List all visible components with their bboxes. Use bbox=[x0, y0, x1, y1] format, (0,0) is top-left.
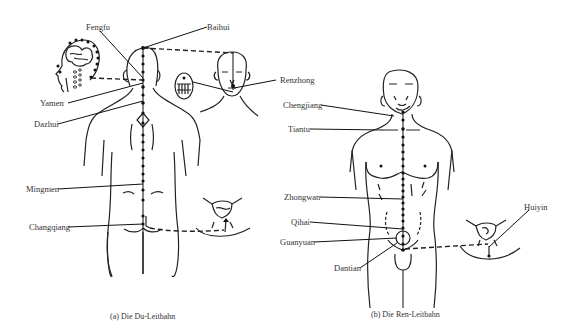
panel-b-front-figure bbox=[350, 70, 454, 308]
label-guanyuan: Guanyuan bbox=[280, 237, 315, 247]
connector-brain-spine bbox=[91, 78, 143, 80]
label-baihui: Baihui bbox=[207, 22, 230, 32]
label-renzhong: Renzhong bbox=[280, 75, 314, 85]
caption-panel-b: (b) Die Ren-Leitbahn bbox=[371, 310, 440, 319]
face-inset bbox=[200, 52, 258, 116]
connector-huiyin bbox=[405, 244, 488, 249]
label-changqiang: Changqiang bbox=[29, 222, 70, 232]
diagram-drawing bbox=[0, 0, 573, 336]
du-meridian-points bbox=[141, 46, 145, 226]
pelvis-inset-b bbox=[460, 220, 520, 259]
label-dazhui: Dazhui bbox=[34, 119, 59, 129]
label-tiantu: Tiantu bbox=[288, 124, 310, 134]
label-chengjiang: Chengjiang bbox=[283, 100, 322, 110]
caption-panel-a: (a) Die Du-Leitbahn bbox=[110, 312, 175, 321]
label-qihai: Qihai bbox=[291, 217, 310, 227]
connector-baihui-face bbox=[143, 48, 233, 53]
label-huiyin: Huiyin bbox=[524, 202, 548, 212]
label-fengfu: Fengfu bbox=[86, 22, 110, 32]
mouth-inset bbox=[175, 73, 193, 99]
label-zhongwan: Zhongwan bbox=[284, 192, 320, 202]
label-mingmen: Mingmen bbox=[26, 184, 59, 194]
connector-changqiang bbox=[150, 228, 224, 231]
label-dantian: Dantian bbox=[334, 263, 361, 273]
brain-head-inset bbox=[56, 39, 100, 93]
label-yamen: Yamen bbox=[40, 98, 64, 108]
meridian-diagram: Fengfu Baihui Yamen Dazhui Renzhong Ming… bbox=[0, 0, 573, 336]
